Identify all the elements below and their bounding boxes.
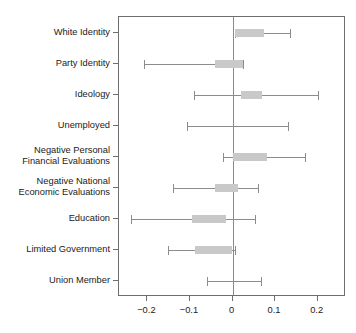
confidence-interval-cap-high: [305, 153, 306, 162]
y-axis-label-7: Education: [0, 213, 110, 224]
x-axis-tick-2: [189, 296, 190, 301]
x-axis-tick-4: [274, 296, 275, 301]
confidence-interval-cap-high: [261, 277, 262, 286]
estimate-box: [241, 91, 263, 99]
plot-area: [118, 16, 345, 296]
y-axis-label-8: Limited Government: [0, 244, 110, 255]
confidence-interval-cap-high: [258, 184, 259, 193]
confidence-interval-cap-high: [235, 246, 236, 255]
x-axis-tick-label-1: −0.2: [137, 305, 155, 315]
confidence-interval-line: [207, 281, 261, 282]
confidence-interval-cap-high: [255, 215, 256, 224]
confidence-interval-cap-high: [290, 29, 291, 38]
estimate-box: [233, 153, 268, 161]
estimate-box: [192, 215, 225, 223]
confidence-interval-line: [187, 126, 289, 127]
x-axis-tick-label-2: −0.1: [180, 305, 198, 315]
x-axis-tick-label-4: 0.1: [268, 305, 281, 315]
confidence-interval-cap-high: [318, 91, 319, 100]
confidence-interval-cap-low: [207, 277, 208, 286]
confidence-interval-cap-low: [168, 246, 169, 255]
confidence-interval-cap-low: [131, 215, 132, 224]
y-axis-label-6: Negative National Economic Evaluations: [0, 177, 110, 198]
x-axis-tick-label-5: 0.2: [310, 305, 323, 315]
confidence-interval-cap-high: [288, 122, 289, 131]
y-axis-label-4: Unemployed: [0, 120, 110, 131]
x-axis-tick-5: [317, 296, 318, 301]
y-axis-label-3: Ideology: [0, 88, 110, 99]
confidence-interval-cap-low: [173, 184, 174, 193]
estimate-box: [235, 29, 264, 37]
y-axis-label-9: Union Member: [0, 275, 110, 286]
confidence-interval-cap-low: [223, 153, 224, 162]
y-axis-label-2: Party Identity: [0, 57, 110, 68]
estimate-box: [215, 184, 238, 192]
confidence-interval-cap-low: [187, 122, 188, 131]
x-axis-tick-3: [232, 296, 233, 301]
confidence-interval-cap-low: [144, 60, 145, 69]
y-axis-label-5: Negative Personal Financial Evaluations: [0, 145, 110, 166]
estimate-box: [215, 60, 243, 68]
confidence-interval-cap-high: [243, 60, 244, 69]
x-axis-tick-1: [146, 296, 147, 301]
y-axis-label-1: White Identity: [0, 26, 110, 37]
coefficient-plot-figure: White IdentityParty IdentityIdeologyUnem…: [0, 0, 356, 333]
confidence-interval-cap-low: [194, 91, 195, 100]
x-axis-tick-label-3: 0: [229, 305, 234, 315]
estimate-box: [195, 246, 232, 254]
